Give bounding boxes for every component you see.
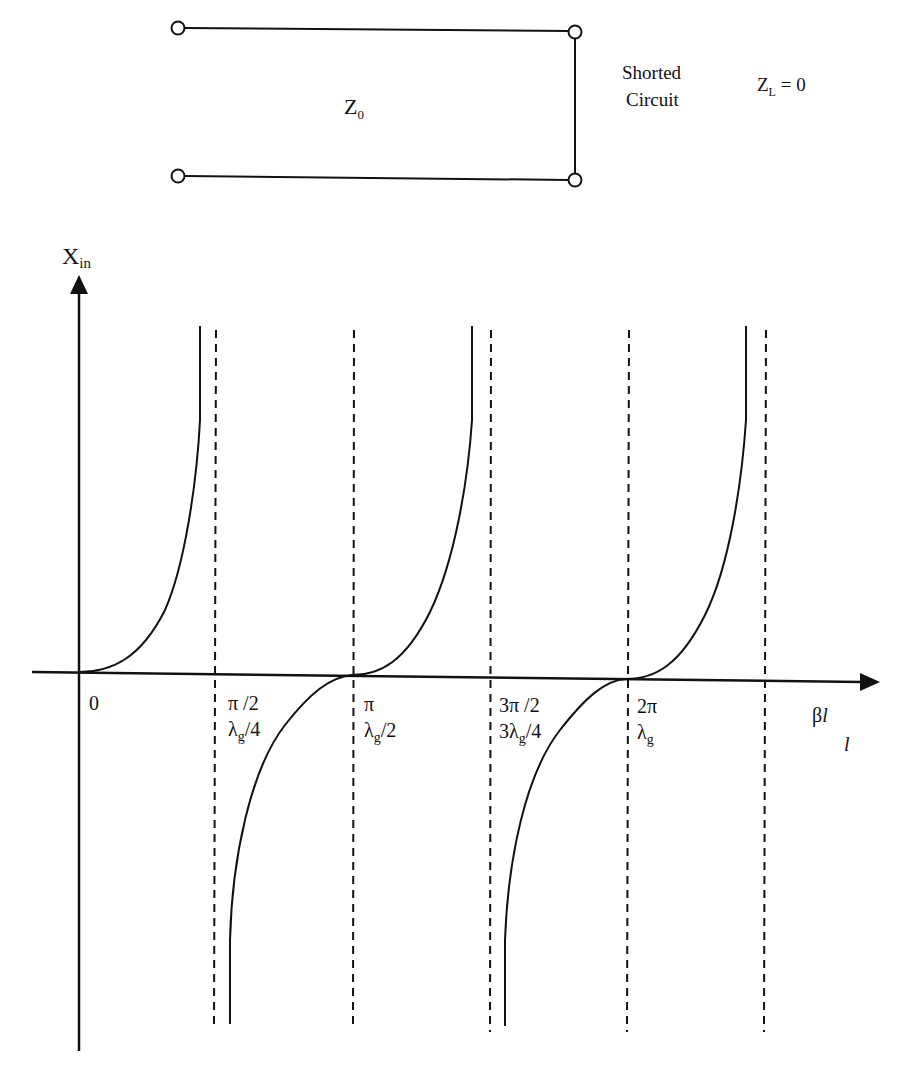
fraction: /4 (245, 718, 261, 740)
line-impedance-label: Z0 (344, 96, 364, 118)
diagram-canvas (0, 0, 914, 1086)
load-impedance-subscript: L (769, 85, 776, 99)
asymptote-2pi (627, 330, 629, 1032)
lambda-subscript: g (238, 729, 245, 744)
y-axis-label-symbol: X (62, 243, 79, 269)
tick-label-quarter-wavelength: λg/4 (228, 719, 260, 739)
lambda-subscript: g (519, 731, 526, 746)
tick-label-three-quarter-wavelength: 3λg/4 (499, 721, 541, 741)
lambda-subscript: g (647, 732, 654, 747)
transmission-line-circuit (172, 22, 582, 187)
lambda-symbol: λ (364, 719, 374, 741)
terminal-bottom-left (172, 170, 185, 183)
x-axis-arrow-icon (860, 673, 880, 691)
tick-label-3pi-over-2: 3π /2 (499, 695, 540, 715)
x-axis (32, 672, 862, 682)
asymptote-5pi-over-2 (764, 330, 766, 1032)
lambda-symbol: 3λ (499, 720, 519, 742)
top-conductor (185, 28, 569, 31)
x-axis-label-length: l (844, 734, 850, 754)
terminal-bottom-right (569, 174, 582, 187)
asymptote-3pi-over-2 (490, 330, 491, 1032)
tick-label-half-wavelength: λg/2 (364, 720, 396, 740)
y-axis-label-subscript: in (79, 255, 91, 271)
asymptote-pi (353, 330, 354, 1030)
x-axis-label-l: l (822, 704, 828, 726)
tick-label-wavelength: λg (637, 722, 654, 742)
load-impedance-symbol: Z (757, 74, 769, 95)
lambda-symbol: λ (228, 718, 238, 740)
curve-branch-3 (505, 326, 746, 1026)
terminal-top-right (569, 26, 582, 39)
tick-label-pi: π (364, 694, 374, 714)
tick-label-0: 0 (89, 693, 99, 713)
line-impedance-symbol: Z (344, 94, 357, 119)
curve-branch-1 (79, 326, 200, 672)
load-impedance-value: = 0 (776, 74, 806, 95)
terminal-top-left (172, 22, 185, 35)
bottom-conductor (185, 176, 569, 180)
lambda-subscript: g (374, 730, 381, 745)
fraction: /2 (381, 719, 397, 741)
lambda-symbol: λ (637, 721, 647, 743)
termination-label-line1: Shorted (622, 63, 681, 82)
y-axis-label: Xin (62, 244, 91, 268)
asymptote-pi-over-2 (214, 330, 216, 1030)
x-axis-label-beta: β (812, 704, 822, 726)
fraction: /4 (526, 720, 542, 742)
plot (32, 275, 880, 1051)
line-impedance-subscript: 0 (357, 107, 364, 122)
load-impedance-label: ZL = 0 (757, 75, 806, 94)
tick-label-pi-over-2: π /2 (228, 693, 259, 713)
x-axis-label-beta-l: βl (812, 705, 828, 725)
tick-label-2pi: 2π (637, 696, 657, 716)
y-axis-arrow-icon (70, 275, 88, 294)
termination-label-line2: Circuit (626, 90, 679, 109)
